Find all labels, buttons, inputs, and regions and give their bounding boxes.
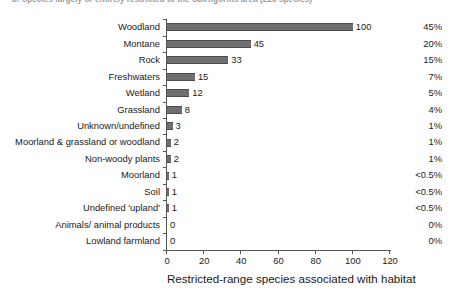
category-label: Undefined 'upland' (0, 200, 160, 216)
bar-percent-label: 0% (428, 217, 442, 233)
y-tick (163, 102, 166, 103)
x-tick-label: 120 (373, 255, 407, 266)
y-axis-line (166, 19, 167, 250)
bar-value-label: 2 (174, 134, 179, 150)
bar-container (167, 217, 168, 233)
bar (167, 106, 182, 114)
bar-value-label: 1 (172, 200, 177, 216)
x-tick-label: 20 (187, 255, 221, 266)
category-label: Grassland (0, 102, 160, 118)
bar-container (167, 19, 353, 35)
bar-percent-label: <0.5% (415, 184, 442, 200)
bar-value-label: 3 (176, 118, 181, 134)
bar-value-label: 1 (172, 167, 177, 183)
bar-row: Lowland farmland00% (0, 233, 451, 249)
y-tick (163, 85, 166, 86)
x-tick (389, 250, 390, 254)
bar-percent-label: 0% (428, 233, 442, 249)
bar (167, 23, 353, 31)
x-tick (240, 250, 241, 254)
bar (167, 122, 173, 130)
x-tick-label: 40 (224, 255, 258, 266)
category-label: Unknown/undefined (0, 118, 160, 134)
y-tick (163, 36, 166, 37)
bar (167, 89, 189, 97)
y-tick (163, 217, 166, 218)
category-label: Montane (0, 36, 160, 52)
x-tick (315, 250, 316, 254)
bar (167, 56, 228, 64)
bar-row: Rock3315% (0, 52, 451, 68)
bar-container (167, 200, 169, 216)
bar-container (167, 233, 168, 249)
x-tick-label: 0 (150, 255, 184, 266)
bar-chart: Woodland10045%Montane4520%Rock3315%Fresh… (0, 0, 451, 300)
bar-container (167, 102, 182, 118)
bar-row: Undefined 'upland'1<0.5% (0, 200, 451, 216)
bar-value-label: 15 (198, 69, 208, 85)
y-tick (163, 200, 166, 201)
bar-row: Montane4520% (0, 36, 451, 52)
bar-container (167, 151, 171, 167)
category-label: Soil (0, 184, 160, 200)
bar-row: Non-woody plants21% (0, 151, 451, 167)
bar-value-label: 100 (356, 19, 372, 35)
bar-value-label: 2 (174, 151, 179, 167)
bar-row: Freshwaters157% (0, 69, 451, 85)
y-tick (163, 69, 166, 70)
bar-row: Grassland84% (0, 102, 451, 118)
bar-row: Unknown/undefined31% (0, 118, 451, 134)
y-tick (163, 52, 166, 53)
bar-percent-label: 1% (428, 118, 442, 134)
bar-percent-label: 5% (428, 85, 442, 101)
bar-value-label: 0 (170, 233, 175, 249)
x-tick-label: 60 (262, 255, 296, 266)
x-tick-label: 80 (299, 255, 333, 266)
category-label: Lowland farmland (0, 233, 160, 249)
x-tick (352, 250, 353, 254)
bar-row: Animals/ animal products00% (0, 217, 451, 233)
y-tick (163, 134, 166, 135)
x-tick (203, 250, 204, 254)
bar-container (167, 52, 228, 68)
bar (167, 188, 169, 196)
x-tick-label: 100 (336, 255, 370, 266)
bar-percent-label: 20% (423, 36, 442, 52)
bar (167, 204, 169, 212)
bar-row: Soil1<0.5% (0, 184, 451, 200)
y-tick (163, 151, 166, 152)
bar-percent-label: 15% (423, 52, 442, 68)
category-label: Moorland (0, 167, 160, 183)
x-tick (278, 250, 279, 254)
bar-percent-label: 4% (428, 102, 442, 118)
y-tick (163, 167, 166, 168)
bar-container (167, 184, 169, 200)
y-tick (163, 184, 166, 185)
y-tick (163, 250, 166, 251)
x-axis-line (166, 250, 391, 251)
bar-row: Wetland125% (0, 85, 451, 101)
bar-value-label: 8 (185, 102, 190, 118)
bar-row: Moorland & grassland or woodland21% (0, 134, 451, 150)
category-label: Woodland (0, 19, 160, 35)
bar-percent-label: <0.5% (415, 167, 442, 183)
bar-percent-label: 1% (428, 134, 442, 150)
bar (167, 40, 251, 48)
category-label: Wetland (0, 85, 160, 101)
bar-container (167, 36, 251, 52)
bar-value-label: 0 (170, 217, 175, 233)
x-axis-title: Restricted-range species associated with… (167, 272, 399, 285)
category-label: Moorland & grassland or woodland (0, 134, 160, 150)
bar-container (167, 69, 195, 85)
bar-percent-label: 1% (428, 151, 442, 167)
bar-row: Woodland10045% (0, 19, 451, 35)
bar (167, 172, 169, 180)
y-tick (163, 118, 166, 119)
bar-percent-label: <0.5% (415, 200, 442, 216)
bar-value-label: 12 (192, 85, 202, 101)
bar-container (167, 167, 169, 183)
y-tick (163, 233, 166, 234)
bar-percent-label: 45% (423, 19, 442, 35)
x-tick (166, 250, 167, 254)
category-label: Animals/ animal products (0, 217, 160, 233)
